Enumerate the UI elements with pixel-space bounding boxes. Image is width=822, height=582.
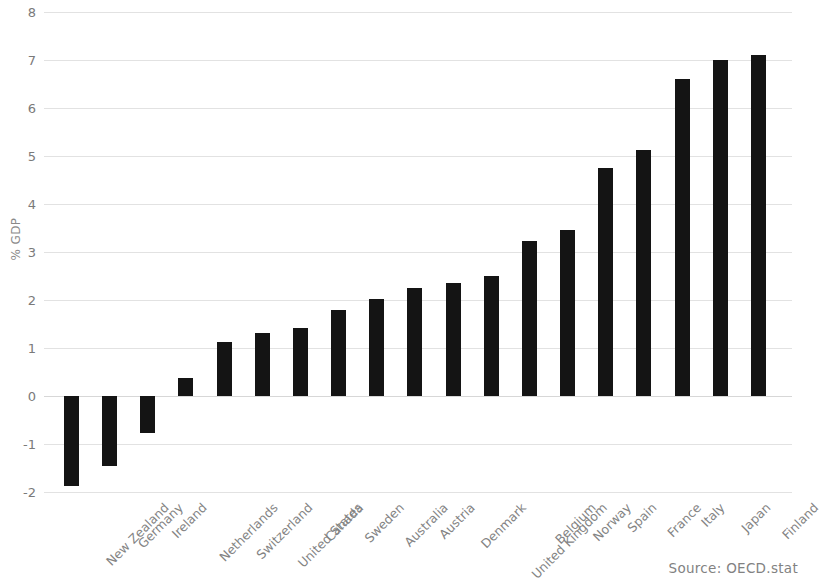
y-axis-tick-label: -2: [2, 485, 36, 500]
bar: [522, 241, 537, 396]
bar: [713, 60, 728, 396]
bar: [331, 310, 346, 396]
x-axis-tick-label: Japan: [738, 500, 773, 535]
y-axis-tick-label: 6: [2, 101, 36, 116]
gridline: 7: [44, 60, 792, 61]
y-axis-tick-label: -1: [2, 437, 36, 452]
y-axis-tick-label: 4: [2, 197, 36, 212]
bar: [675, 79, 690, 396]
gridline: -1: [44, 444, 792, 445]
gridline: -2: [44, 492, 792, 493]
plot-area: -2-1012345678: [44, 0, 792, 496]
bar: [484, 276, 499, 396]
bar: [407, 288, 422, 396]
y-axis-tick-label: 1: [2, 341, 36, 356]
y-axis-label: % GDP: [9, 209, 23, 269]
bar: [178, 378, 193, 396]
bar: [446, 283, 461, 396]
bar: [751, 55, 766, 396]
x-axis-tick-label: Finland: [779, 500, 821, 542]
bar: [102, 396, 117, 466]
y-axis-tick-label: 2: [2, 293, 36, 308]
y-axis-tick-label: 8: [2, 5, 36, 20]
x-axis-tick-label: Italy: [698, 500, 728, 530]
bar: [636, 150, 651, 396]
x-axis-tick-label: Sweden: [361, 500, 407, 546]
source-note: Source: OECD.stat: [669, 560, 798, 576]
y-axis-tick-label: 0: [2, 389, 36, 404]
bar: [293, 328, 308, 396]
bar: [598, 168, 613, 396]
bar: [255, 333, 270, 396]
gridline: 8: [44, 12, 792, 13]
x-axis-tick-label: Canada: [322, 500, 366, 544]
bar: [369, 299, 384, 396]
bar: [64, 396, 79, 486]
bar: [560, 230, 575, 396]
y-axis-tick-label: 5: [2, 149, 36, 164]
bar: [217, 342, 232, 396]
y-axis-tick-label: 3: [2, 245, 36, 260]
bar: [140, 396, 155, 433]
gridline: 0: [44, 396, 792, 397]
x-axis-tick-label: Denmark: [478, 500, 529, 551]
y-axis-tick-label: 7: [2, 53, 36, 68]
